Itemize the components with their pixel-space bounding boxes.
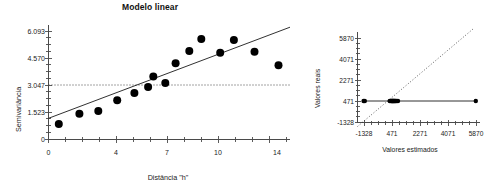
data-point [197, 35, 205, 43]
y-tick-label: 1.523 [27, 109, 45, 116]
y-tick-label: 4071 [339, 56, 354, 63]
y-tick-label: 2271 [339, 77, 354, 84]
data-point [94, 107, 102, 115]
data-point [396, 99, 401, 104]
y-tick-label: 3.047 [27, 82, 45, 89]
fit-line [49, 27, 291, 118]
x-axis-title: Valores estimados [382, 146, 438, 153]
validation-plot: Valores reais Valores estimados 5870 407… [300, 0, 493, 185]
data-point [275, 61, 283, 69]
x-tick-label: 471 [386, 130, 397, 137]
data-point [251, 48, 259, 56]
x-tick-label: 2271 [413, 130, 428, 137]
y-tick-label: 6.093 [27, 28, 45, 35]
data-point [144, 83, 152, 91]
y-tick-label: 0 [41, 136, 45, 143]
x-tick-label: 14 [273, 149, 281, 156]
y-axis-title: Semivariância [14, 87, 23, 132]
x-tick-label: 0 [47, 149, 51, 156]
semivariogram-panel: Modelo linear Semivariância Distância "h… [0, 0, 300, 185]
data-point [185, 47, 193, 55]
data-point [130, 89, 138, 97]
data-point [75, 110, 83, 118]
data-point [149, 73, 157, 81]
x-axis-title: Distância "h" [148, 173, 189, 182]
validation-panel: Valores reais Valores estimados 5870 407… [300, 0, 493, 185]
scatter-points [55, 35, 283, 128]
x-tick-label: 7 [165, 149, 169, 156]
data-point [363, 99, 367, 103]
y-tick-label: -1328 [337, 119, 354, 126]
data-point [55, 120, 63, 128]
chart-title: Modelo linear [0, 2, 300, 12]
y-tick-label: 4.570 [27, 55, 45, 62]
x-tick-label: -1328 [356, 130, 373, 137]
x-tick-label: 4071 [441, 130, 456, 137]
x-tick-label: 5870 [469, 130, 484, 137]
figure-container: Modelo linear Semivariância Distância "h… [0, 0, 493, 185]
x-tick-label: 4 [114, 149, 118, 156]
y-tick-label: 471 [343, 98, 354, 105]
data-point [113, 96, 121, 104]
semivariogram-plot: Semivariância Distância "h" 6.093 4.570 … [0, 0, 300, 185]
identity-reference-line [358, 29, 474, 127]
data-point [230, 36, 238, 44]
y-tick-label: 5870 [339, 35, 354, 42]
data-point [172, 59, 180, 67]
data-point [161, 79, 169, 87]
data-point [216, 49, 224, 57]
x-tick-label: 10 [214, 149, 222, 156]
y-axis-title: Valores reais [314, 68, 321, 108]
data-point [474, 99, 478, 103]
